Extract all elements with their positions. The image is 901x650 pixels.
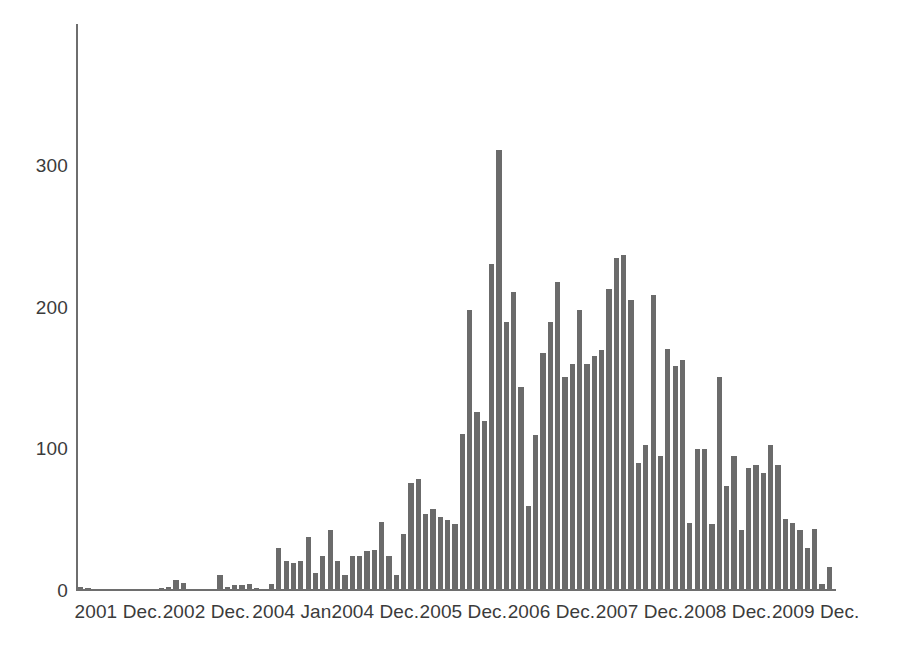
bar — [430, 509, 435, 591]
x-axis-line — [76, 589, 836, 591]
x-axis-tick-label: 2002 Dec. — [163, 600, 251, 624]
bar — [364, 551, 369, 591]
bar — [584, 364, 589, 591]
bar — [709, 524, 714, 591]
y-axis-tick-label: 300 — [10, 156, 68, 175]
bar — [504, 322, 509, 591]
bar — [526, 506, 531, 591]
bar — [306, 537, 311, 591]
bar — [643, 445, 648, 591]
bar — [548, 322, 553, 591]
bar — [284, 561, 289, 591]
bar — [540, 353, 545, 591]
bar — [577, 310, 582, 591]
bar — [717, 377, 722, 591]
bar — [621, 255, 626, 591]
bar — [328, 530, 333, 591]
bar — [298, 561, 303, 591]
bar — [460, 434, 465, 591]
bar — [702, 449, 707, 591]
x-axis-tick-label: 2007 Dec. — [596, 600, 684, 624]
bar — [746, 468, 751, 591]
bar — [401, 534, 406, 591]
bar — [467, 310, 472, 591]
y-axis-tick-labels: 0100200300 — [0, 0, 68, 650]
bar — [606, 289, 611, 591]
y-axis-tick-label: 100 — [10, 439, 68, 458]
bar — [518, 387, 523, 591]
x-axis-tick-labels: 2001 Dec.2002 Dec.2004 Jan.2004 Dec.2005… — [0, 600, 901, 636]
bar — [761, 473, 766, 591]
bar — [372, 550, 377, 591]
x-axis-tick-label: 2001 Dec. — [75, 600, 163, 624]
bar — [680, 360, 685, 591]
bar — [416, 479, 421, 591]
bar — [408, 483, 413, 591]
bar — [438, 517, 443, 591]
bar — [739, 530, 744, 591]
bar — [445, 520, 450, 591]
bar — [335, 561, 340, 591]
bar — [775, 465, 780, 591]
bar — [482, 421, 487, 591]
bar — [592, 356, 597, 591]
y-axis-tick-label: 0 — [10, 581, 68, 600]
bar — [783, 519, 788, 591]
bar — [379, 522, 384, 591]
bar — [276, 548, 281, 591]
bar — [753, 465, 758, 591]
x-axis-tick-label: 2006 Dec. — [508, 600, 596, 624]
x-axis-tick-label: 2008 Dec. — [684, 600, 772, 624]
bar — [489, 264, 494, 591]
bar — [533, 435, 538, 591]
bar — [599, 350, 604, 591]
bar — [658, 456, 663, 591]
bar — [496, 150, 501, 591]
bar — [386, 556, 391, 591]
bar — [614, 258, 619, 591]
bar — [687, 523, 692, 591]
bar — [651, 295, 656, 591]
bar — [665, 349, 670, 591]
bar — [474, 412, 479, 591]
bar — [768, 445, 773, 591]
bar — [357, 556, 362, 591]
bar — [350, 556, 355, 591]
x-axis-tick-label: 2005 Dec. — [420, 600, 508, 624]
bar — [673, 366, 678, 591]
bar-chart: 0100200300 2001 Dec.2002 Dec.2004 Jan.20… — [0, 0, 901, 650]
bar — [797, 530, 802, 591]
x-axis-tick-label: 2009 Dec. — [772, 600, 860, 624]
bar — [636, 463, 641, 591]
x-axis-tick-label: 2004 Dec. — [331, 600, 419, 624]
bar — [724, 486, 729, 591]
y-axis-tick-label: 200 — [10, 298, 68, 317]
bar — [790, 523, 795, 591]
bar — [812, 529, 817, 591]
bar — [827, 567, 832, 591]
bar — [291, 563, 296, 591]
bar — [511, 292, 516, 591]
bar — [562, 377, 567, 591]
bar — [320, 556, 325, 591]
bar — [570, 364, 575, 591]
plot-area — [78, 24, 834, 591]
bar — [628, 300, 633, 591]
x-axis-tick-label: 2004 Jan. — [252, 600, 336, 624]
bar — [805, 548, 810, 591]
bar — [423, 514, 428, 591]
bar — [555, 282, 560, 591]
bar — [452, 524, 457, 591]
bar — [731, 456, 736, 591]
bar — [695, 449, 700, 591]
